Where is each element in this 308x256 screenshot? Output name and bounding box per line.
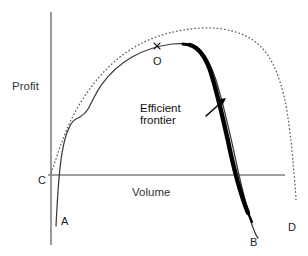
- figure-canvas: [0, 0, 308, 256]
- y-axis-label: Profit: [12, 80, 39, 92]
- efficient-frontier-figure: Profit Volume C A B D O Efficient fronti…: [0, 0, 308, 256]
- annotation-line-1: Efficient: [140, 102, 181, 114]
- x-axis-label: Volume: [132, 186, 170, 198]
- point-label-d: D: [288, 222, 296, 234]
- annotation-line-2: frontier: [140, 114, 181, 126]
- point-label-o: O: [153, 56, 162, 68]
- efficient-frontier-annotation: Efficient frontier: [140, 102, 181, 127]
- efficient-frontier-curve: [190, 45, 248, 213]
- point-label-b: B: [250, 237, 257, 249]
- point-label-a: A: [61, 216, 68, 228]
- efficient-frontier-taper-top: [183, 44, 190, 45]
- point-label-c: C: [38, 175, 46, 187]
